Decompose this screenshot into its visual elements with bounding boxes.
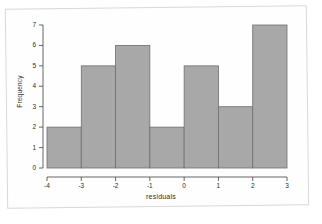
histogram-bar xyxy=(218,107,252,168)
y-tick-label: 7 xyxy=(24,21,36,28)
y-tick-label: 3 xyxy=(24,103,36,110)
x-tick-label: -4 xyxy=(40,182,54,189)
x-tick-label: 2 xyxy=(246,182,260,189)
y-tick-label: 2 xyxy=(24,123,36,130)
histogram-bar xyxy=(184,66,218,168)
histogram-figure: 01234567 -4-3-2-10123 residuals Frequenc… xyxy=(0,0,322,224)
y-tick-label: 4 xyxy=(24,82,36,89)
x-axis-title: residuals xyxy=(0,193,322,200)
x-tick-label: -2 xyxy=(109,182,123,189)
plot-canvas xyxy=(0,0,322,224)
x-tick-label: 3 xyxy=(280,182,294,189)
y-tick-label: 5 xyxy=(24,62,36,69)
x-tick-label: 1 xyxy=(211,182,225,189)
y-axis-title: Frequency xyxy=(16,62,23,122)
screenshot-root: 01234567 -4-3-2-10123 residuals Frequenc… xyxy=(0,0,322,224)
histogram-bar xyxy=(150,127,184,168)
y-tick-label: 0 xyxy=(24,164,36,171)
y-tick-label: 1 xyxy=(24,144,36,151)
y-tick-label: 6 xyxy=(24,41,36,48)
histogram-bar xyxy=(81,66,115,168)
x-tick-label: -3 xyxy=(74,182,88,189)
histogram-bar xyxy=(47,127,81,168)
histogram-bar xyxy=(253,25,287,168)
histogram-bar xyxy=(116,45,150,168)
x-tick-label: 0 xyxy=(177,182,191,189)
x-tick-label: -1 xyxy=(143,182,157,189)
bar-series xyxy=(47,25,287,168)
